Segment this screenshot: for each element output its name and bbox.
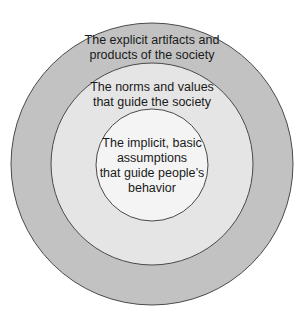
inner-label-line-3: that guide people’s xyxy=(82,166,222,181)
outer-label-line-2: products of the society xyxy=(52,48,252,63)
inner-label-line-4: behavior xyxy=(82,181,222,196)
inner-label-line-1: The implicit, basic xyxy=(82,136,222,151)
outer-label-line-1: The explicit artifacts and xyxy=(52,33,252,48)
outer-layer-label: The explicit artifacts and products of t… xyxy=(52,33,252,63)
culture-layers-diagram: The explicit artifacts and products of t… xyxy=(0,0,303,318)
inner-layer-label: The implicit, basic assumptions that gui… xyxy=(82,136,222,196)
inner-label-line-2: assumptions xyxy=(82,151,222,166)
middle-layer-label: The norms and values that guide the soci… xyxy=(62,80,242,110)
middle-label-line-2: that guide the society xyxy=(62,95,242,110)
middle-label-line-1: The norms and values xyxy=(62,80,242,95)
